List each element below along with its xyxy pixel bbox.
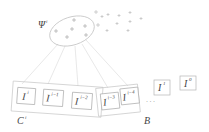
frame-box-1 xyxy=(154,80,170,95)
frame-label-sup: i−1 xyxy=(51,92,59,97)
connector-lines xyxy=(22,40,128,88)
frame-label-sup: 1 xyxy=(163,81,166,86)
cluster-label: Ψ xyxy=(38,19,46,30)
cluster-ellipse xyxy=(46,11,98,52)
frame-label-sup: i−3 xyxy=(107,94,115,100)
buffer-group: I i−3 I i−4 xyxy=(96,84,141,116)
frame-label: I xyxy=(183,78,188,89)
clip-label-sup: i xyxy=(25,115,27,120)
buffer-label: B xyxy=(144,115,150,126)
frame-label-sup: i−4 xyxy=(127,89,135,95)
frame-label-sup: i−2 xyxy=(80,95,88,101)
frame-label: I xyxy=(157,82,162,93)
diagram-canvas: Ψ i I i I i−1 I i−2 I i−3 I i−4 I 1 I 0 … xyxy=(0,0,209,132)
plus-marks-scattered xyxy=(94,10,143,32)
frame-box-i xyxy=(17,87,36,104)
clip-label: C xyxy=(17,115,24,126)
frame-box-0 xyxy=(180,76,196,90)
clip-group: I i I i−1 I i−2 xyxy=(11,81,103,117)
cluster-label-sup: i xyxy=(46,19,48,24)
ellipsis: · · · xyxy=(146,99,155,105)
plus-marks-cluster xyxy=(54,18,88,39)
